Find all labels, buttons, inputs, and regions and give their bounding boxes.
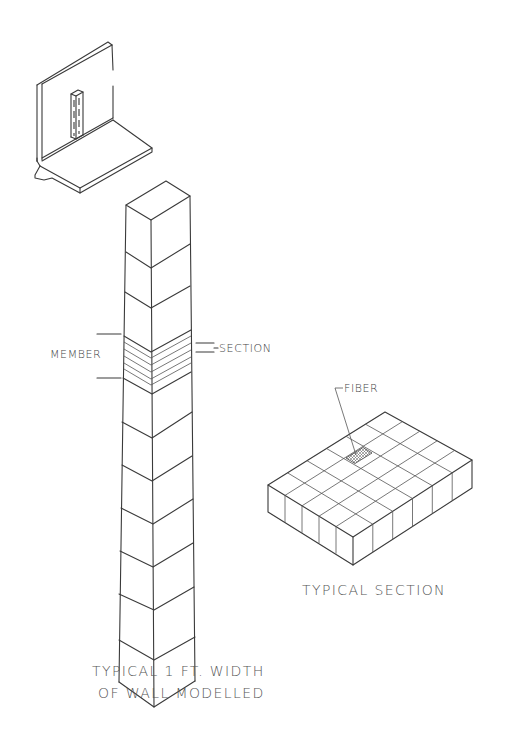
wall-strip-highlight [71, 90, 83, 139]
fiber-cell [346, 448, 372, 464]
column-top-face [126, 181, 190, 220]
typical-section-caption: TYPICAL SECTION [302, 582, 446, 598]
wall-column [119, 181, 195, 707]
member-annotation: MEMBER [50, 334, 121, 378]
column-caption-line2: OF WALL MODELLED [98, 685, 265, 701]
fiber-annotation: FIBER [335, 382, 378, 455]
typical-section-slab [268, 412, 472, 565]
diagram-canvas: MEMBER SECTION TYPICAL 1 FT. WIDTH OF WA… [0, 0, 505, 731]
section-label: SECTION [219, 342, 272, 355]
wall-isometric-sketch [35, 42, 152, 193]
member-label: MEMBER [50, 348, 101, 361]
column-caption-line1: TYPICAL 1 FT. WIDTH [92, 663, 265, 679]
fiber-label: FIBER [344, 382, 378, 395]
section-annotation: SECTION [196, 342, 272, 355]
